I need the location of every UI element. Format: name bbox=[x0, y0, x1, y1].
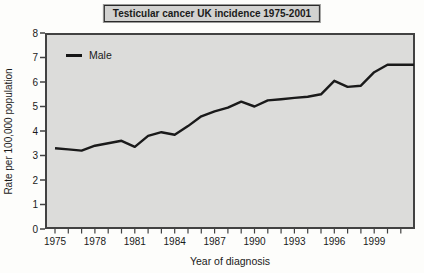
chart-figure: Testicular cancer UK incidence 1975-2001… bbox=[0, 0, 424, 273]
x-tick-label: 1999 bbox=[357, 236, 391, 247]
x-tick-label: 1990 bbox=[238, 236, 272, 247]
legend: Male bbox=[66, 49, 112, 61]
x-tick-label: 1975 bbox=[38, 236, 72, 247]
x-tick-label: 1978 bbox=[78, 236, 112, 247]
y-tick-label: 3 bbox=[18, 150, 38, 161]
plot-area bbox=[45, 33, 415, 229]
y-tick-label: 7 bbox=[18, 52, 38, 63]
x-tick-label: 1996 bbox=[317, 236, 351, 247]
y-tick-label: 6 bbox=[18, 77, 38, 88]
x-tick-label: 1987 bbox=[198, 236, 232, 247]
legend-line-marker bbox=[66, 54, 82, 57]
y-tick-label: 0 bbox=[18, 224, 38, 235]
x-tick-label: 1981 bbox=[118, 236, 152, 247]
legend-label-male: Male bbox=[89, 49, 112, 61]
y-tick-label: 4 bbox=[18, 126, 38, 137]
chart-title: Testicular cancer UK incidence 1975-2001 bbox=[104, 5, 320, 22]
y-tick-label: 8 bbox=[18, 28, 38, 39]
x-tick-label: 1984 bbox=[158, 236, 192, 247]
y-tick-label: 1 bbox=[18, 199, 38, 210]
y-axis-title: Rate per 100,000 population bbox=[3, 32, 16, 232]
y-tick-label: 5 bbox=[18, 101, 38, 112]
x-axis-title: Year of diagnosis bbox=[45, 255, 415, 267]
y-tick-label: 2 bbox=[18, 175, 38, 186]
x-tick-label: 1993 bbox=[277, 236, 311, 247]
